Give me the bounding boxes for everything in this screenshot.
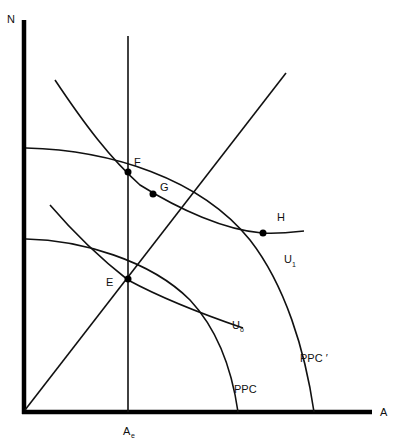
ppc-prime-label: PPC ′	[300, 352, 328, 364]
point-h-marker	[260, 230, 267, 237]
point-g-marker	[150, 191, 157, 198]
u0-curve	[50, 205, 243, 328]
point-f-label: F	[134, 156, 141, 168]
ae-tick-subscript: e	[131, 432, 135, 439]
u1-subscript: 1	[292, 261, 296, 268]
ae-tick-label: A	[123, 425, 131, 437]
trade-diagram: N A A e F G H E U 1 U o PPC PPC ′	[0, 0, 400, 445]
origin-ray	[25, 73, 286, 410]
y-axis-label: N	[7, 13, 15, 25]
u0-label: U	[232, 319, 240, 331]
point-f-marker	[125, 169, 132, 176]
u0-subscript: o	[240, 326, 244, 333]
ppc-prime-curve	[26, 148, 314, 412]
u1-label: U	[284, 253, 292, 265]
point-h-label: H	[277, 211, 285, 223]
ppc-label: PPC	[234, 383, 257, 395]
x-axis-label: A	[380, 406, 388, 418]
point-e-marker	[125, 276, 132, 283]
ppc-curve	[26, 239, 238, 412]
point-e-label: E	[106, 276, 113, 288]
point-g-label: G	[160, 181, 169, 193]
